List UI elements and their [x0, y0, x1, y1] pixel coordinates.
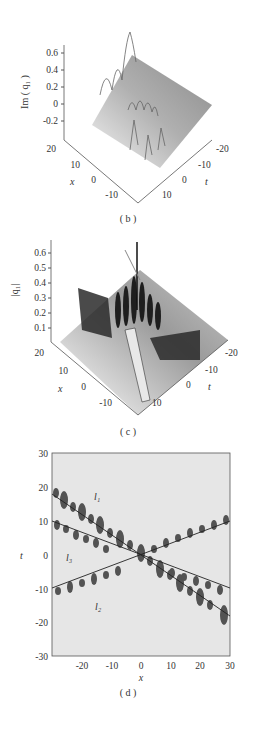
y-tick: -10: [35, 585, 48, 595]
z-axis-label: |q₁|: [9, 284, 20, 297]
z-tick: 0.5: [34, 263, 46, 273]
x-tick: 0: [139, 661, 144, 671]
t-tick: -10: [205, 365, 218, 375]
y-tick: 0: [43, 551, 48, 561]
panel-c: 0.6 0.5 0.4 0.3 0.2 0.1 |q₁| 20 10 0 -10…: [0, 230, 256, 445]
x-tick: 10: [166, 661, 176, 671]
label-l2: l₂: [95, 601, 102, 612]
y-axis-label: t: [20, 550, 23, 561]
x-tick: 20: [47, 144, 57, 154]
z-tick: 0.1: [34, 323, 46, 333]
density-plot: l₁ l₃ l₂ 30 20 10 0 -10 -20 -30 t -20 -1…: [0, 445, 256, 685]
z-tick: 0.2: [46, 82, 58, 92]
t-tick: 0: [186, 380, 191, 390]
y-tick: 30: [39, 449, 49, 459]
caption-b: ( b ): [0, 213, 256, 224]
x-tick: 10: [71, 160, 81, 170]
x-tick: -20: [76, 661, 89, 671]
label-l3: l₃: [66, 552, 73, 563]
z-tick: 0.6: [46, 48, 58, 58]
z-tick: 0.4: [46, 65, 58, 75]
z-tick: 0.6: [34, 248, 46, 258]
x-tick: 0: [81, 382, 86, 392]
x-axis-label: x: [57, 383, 63, 394]
caption-c: ( c ): [0, 426, 256, 437]
y-tick: 10: [39, 517, 49, 527]
x-axis-label: x: [69, 176, 75, 187]
x-tick: 10: [59, 366, 69, 376]
t-tick: 10: [162, 190, 172, 200]
panel-d: l₁ l₃ l₂ 30 20 10 0 -10 -20 -30 t -20 -1…: [0, 445, 256, 735]
x-tick: 0: [91, 175, 96, 185]
z-axis-label: Im ( q₁ ): [19, 75, 31, 109]
t-axis-label: t: [205, 176, 208, 187]
z-tick: 0.2: [34, 308, 46, 318]
z-axis-ticks: 0.6 0.4 0.2 0 -0.2: [43, 48, 64, 126]
z-tick: -0.2: [43, 116, 58, 126]
t-tick: -20: [216, 144, 229, 154]
z-tick: 0.4: [34, 278, 46, 288]
x-tick: -10: [99, 398, 112, 408]
t-tick: 10: [152, 398, 162, 408]
t-tick: -20: [225, 348, 238, 358]
caption-d: ( d ): [0, 687, 256, 698]
x-tick: 30: [225, 661, 235, 671]
x-tick: -10: [106, 661, 119, 671]
x-axis-label: x: [138, 672, 144, 683]
label-l1: l₁: [94, 491, 100, 502]
x-tick: 20: [195, 661, 205, 671]
z-tick: 0: [53, 99, 58, 109]
t-tick: -10: [198, 160, 211, 170]
x-tick: -10: [105, 190, 118, 200]
t-tick: 0: [182, 175, 187, 185]
z-tick: 0.3: [34, 293, 46, 303]
t-axis-label: t: [208, 381, 211, 392]
y-tick: -30: [35, 652, 48, 662]
y-tick: -20: [35, 618, 48, 628]
y-tick: 20: [39, 483, 49, 493]
surface-plot-abs-q1: 0.6 0.5 0.4 0.3 0.2 0.1 |q₁| 20 10 0 -10…: [0, 230, 256, 445]
x-tick: 20: [35, 348, 45, 358]
panel-b: 0.6 0.4 0.2 0 -0.2 Im ( q₁ ) 20 10 0 -10…: [0, 0, 256, 230]
surface-plot-im-q1: 0.6 0.4 0.2 0 -0.2 Im ( q₁ ) 20 10 0 -10…: [0, 0, 256, 230]
